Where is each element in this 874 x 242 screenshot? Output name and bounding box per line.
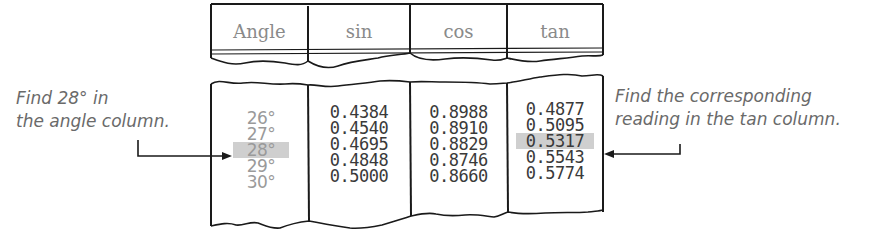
sin-column: 0.4384 0.4540 0.4695 0.4848 0.5000 (308, 104, 410, 184)
right-annotation: Find the corresponding reading in the ta… (615, 85, 841, 131)
left-annotation: Find 28° in the angle column. (16, 87, 170, 133)
tan-column: 0.4877 0.5095 0.5317 0.5543 0.5774 (507, 101, 603, 181)
tan-cell: 0.5774 (526, 165, 584, 181)
left-annotation-line2: the angle column. (16, 110, 170, 133)
left-annotation-line1: Find 28° in (16, 87, 170, 110)
cos-cell: 0.8660 (429, 168, 487, 184)
header-cos: cos (410, 14, 507, 48)
header-angle: Angle (211, 14, 308, 48)
trig-table-diagram: Angle sin cos tan 26° 27° 28° 29° 30° 0.… (0, 0, 874, 242)
sin-cell: 0.5000 (330, 168, 388, 184)
angle-column: 26° 27° 28° 29° 30° (228, 104, 294, 190)
header-tan: tan (507, 14, 603, 48)
angle-cell: 30° (247, 174, 276, 190)
right-annotation-line1: Find the corresponding (615, 85, 841, 108)
arrow-left-icon (604, 150, 614, 158)
cos-column: 0.8988 0.8910 0.8829 0.8746 0.8660 (410, 104, 507, 184)
header-sin: sin (308, 14, 410, 48)
right-annotation-line2: reading in the tan column. (615, 108, 841, 131)
